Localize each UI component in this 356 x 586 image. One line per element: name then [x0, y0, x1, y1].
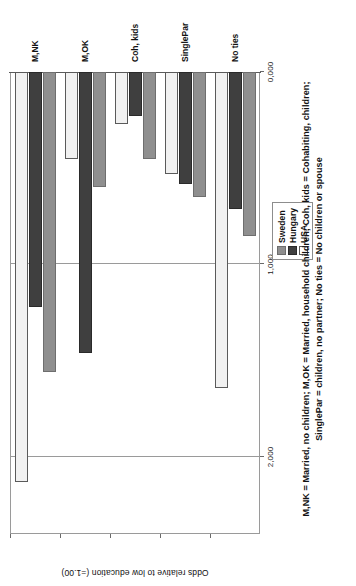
legend-swatch-hungary	[288, 246, 297, 255]
bar-row	[179, 72, 192, 534]
category-label-3: SinglePar	[180, 23, 190, 62]
bar-row	[93, 72, 106, 534]
legend-swatch-sweden	[277, 246, 286, 255]
bar-row	[129, 72, 142, 534]
bar-row	[115, 72, 128, 534]
bar-group	[60, 72, 110, 534]
bar-group	[210, 72, 260, 534]
value-axis-title: Odds relative to low education (=1.00)	[10, 566, 260, 580]
bar-sweden-3	[193, 72, 206, 197]
bar-hungary-4	[229, 72, 242, 209]
bar-row	[193, 72, 206, 534]
category-label-1: M,OK	[80, 40, 90, 62]
bar-row	[215, 72, 228, 534]
bar-group	[110, 72, 160, 534]
plot-wrapper: 0,0001,0002,000 M,NKM,OKCoh, kidsSingleP…	[10, 72, 260, 534]
legend-item-hungary: Hungary	[287, 208, 298, 255]
chart-figure: Odds relative to low education (=1.00) 0…	[0, 0, 356, 586]
bar-row	[29, 72, 42, 534]
bar-sweden-1	[93, 72, 106, 188]
chart-footnote: M,NK = Married, no children; M,OK = Marr…	[300, 64, 326, 534]
bar-row	[165, 72, 178, 534]
bar-group	[160, 72, 210, 534]
value-tick-mark-2	[260, 456, 264, 457]
category-tick-3	[160, 534, 161, 538]
bar-hungary-0	[29, 72, 42, 307]
bar-hungary-1	[79, 72, 92, 353]
bar-row	[65, 72, 78, 534]
footnote-line-2: SinglePar = children, no partner; No tie…	[313, 64, 326, 534]
legend-item-sweden: Sweden	[276, 208, 287, 255]
bar-row	[43, 72, 56, 534]
bar-row	[243, 72, 256, 534]
value-axis-title-text: Odds relative to low education (=1.00)	[61, 568, 208, 578]
bar-usa-0	[15, 72, 28, 482]
bar-sweden-4	[243, 72, 256, 236]
category-tick-1	[60, 534, 61, 538]
category-label-0: M,NK	[30, 40, 40, 62]
category-label-2: Coh, kids	[130, 24, 140, 62]
value-tick-mark-1	[260, 264, 264, 265]
bar-hungary-3	[179, 72, 192, 184]
bar-usa-3	[165, 72, 178, 174]
footnote-line-1: M,NK = Married, no children; M,OK = Marr…	[300, 64, 313, 534]
bar-row	[143, 72, 156, 534]
bar-hungary-2	[129, 72, 142, 116]
bar-usa-2	[115, 72, 128, 124]
category-tick-4	[210, 534, 211, 538]
legend-label-hungary: Hungary	[288, 208, 298, 243]
bar-row	[15, 72, 28, 534]
value-tick-label-2: 2,000	[266, 447, 275, 468]
bar-group	[10, 72, 60, 534]
bar-usa-4	[215, 72, 228, 388]
legend-label-sweden: Sweden	[277, 210, 287, 243]
bar-sweden-0	[43, 72, 56, 372]
category-tick-2	[110, 534, 111, 538]
bar-row	[79, 72, 92, 534]
bar-row	[229, 72, 242, 534]
bar-usa-1	[65, 72, 78, 159]
rotated-page-frame: Odds relative to low education (=1.00) 0…	[0, 0, 356, 586]
bar-sweden-2	[143, 72, 156, 159]
category-label-4: No ties	[230, 34, 240, 62]
value-tick-mark-0	[260, 71, 264, 72]
category-tick-0	[10, 534, 11, 538]
value-tick-label-0: 0,000	[266, 62, 275, 83]
